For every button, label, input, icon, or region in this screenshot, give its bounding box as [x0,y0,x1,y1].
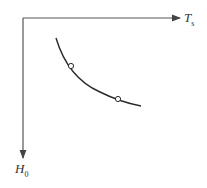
y-axis-subscript: 0 [24,170,28,179]
y-axis-symbol: H [15,161,24,176]
x-axis-subscript: s [191,19,194,28]
y-axis-label: H0 [15,161,28,179]
x-axis-label: Ts [184,10,194,28]
curve-marker-1 [68,63,73,68]
curve-marker-2 [115,96,120,101]
curve [56,38,141,106]
diagram-canvas: Ts H0 [0,0,207,188]
diagram-svg [0,0,207,188]
